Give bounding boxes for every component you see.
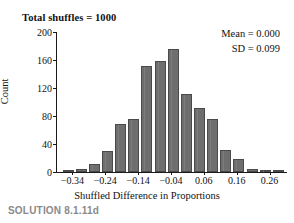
y-tick-label: 200 [12,27,52,38]
x-tick-label: −0.24 [94,175,117,186]
y-tick-label: 160 [12,55,52,66]
x-tick-label: 0.16 [228,175,246,186]
y-axis-label: Count [0,79,10,105]
histogram-bar [194,108,205,172]
x-tick-label: −0.04 [159,175,182,186]
histogram-bar [102,151,113,172]
x-tick-mark [270,172,271,175]
x-tick-label: 0.26 [261,175,279,186]
y-tick-label: 120 [12,83,52,94]
histogram-bar [207,119,218,172]
histogram-bar [247,169,258,173]
chart-title: Total shuffles = 1000 [22,12,116,23]
histogram-bar [220,150,231,172]
histogram-bar [155,61,166,172]
histogram-bar [260,170,271,172]
histogram-bar [128,119,139,172]
x-tick-label: −0.14 [127,175,150,186]
histogram-bar [76,169,87,173]
histogram-bar [63,170,74,172]
plot-area [56,32,286,172]
x-tick-label: −0.34 [61,175,84,186]
x-tick-mark [105,172,106,175]
x-tick-label: 0.06 [195,175,213,186]
y-tick-label: 40 [12,139,52,150]
x-tick-mark [171,172,172,175]
histogram-bar [273,170,284,172]
histogram-figure: Total shuffles = 1000 Mean = 0.000 SD = … [0,0,294,223]
x-tick-mark [237,172,238,175]
figure-caption: SOLUTION 8.1.11d [8,205,99,216]
histogram-bar [233,159,244,172]
histogram-bar [141,66,152,172]
histogram-bar [89,164,100,172]
histogram-bar [115,124,126,172]
x-tick-mark [72,172,73,175]
x-axis-label: Shuffled Difference in Proportions [0,190,294,201]
x-tick-mark [138,172,139,175]
x-tick-mark [204,172,205,175]
y-tick-label: 0 [12,167,52,178]
histogram-bar [168,49,179,172]
y-tick-label: 80 [12,111,52,122]
y-tick-mark [53,172,56,173]
histogram-bar [181,94,192,172]
